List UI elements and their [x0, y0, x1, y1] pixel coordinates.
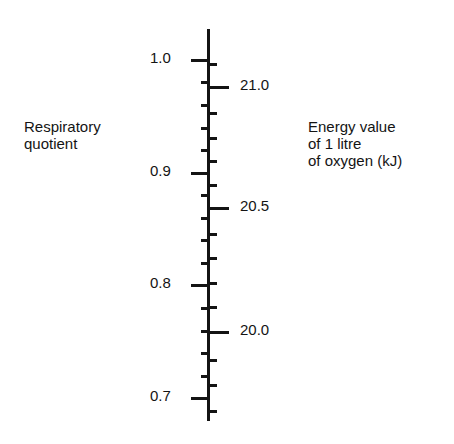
- rq-minor-tick: [201, 330, 208, 333]
- rq-title-line-2: quotient: [24, 135, 101, 152]
- energy-minor-tick: [209, 184, 217, 187]
- rq-minor-tick: [201, 127, 208, 130]
- energy-label-21-0: 21.0: [240, 76, 269, 93]
- rq-major-tick: [191, 397, 208, 400]
- energy-minor-tick: [209, 137, 217, 140]
- rq-label-0-9: 0.9: [150, 162, 171, 179]
- energy-minor-tick: [209, 410, 217, 413]
- energy-minor-tick: [209, 359, 217, 362]
- rq-minor-tick: [201, 194, 208, 197]
- energy-minor-tick: [209, 233, 217, 236]
- rq-title-line-1: Respiratory: [24, 118, 101, 135]
- rq-major-tick: [191, 59, 208, 62]
- rq-label-0-7: 0.7: [150, 387, 171, 404]
- energy-minor-tick: [209, 160, 217, 163]
- energy-label-20-5: 20.5: [240, 197, 269, 214]
- nomogram-diagram: 1.0 0.9 0.8 0.7 21.0 20.5 20.0 Respirato…: [0, 0, 454, 444]
- energy-scale-title: Energy value of 1 litre of oxygen (kJ): [308, 118, 402, 169]
- energy-title-line-1: Energy value: [308, 118, 402, 135]
- rq-label-0-8: 0.8: [150, 274, 171, 291]
- energy-label-20-0: 20.0: [240, 321, 269, 338]
- energy-minor-tick: [209, 63, 217, 66]
- rq-minor-tick: [201, 239, 208, 242]
- rq-major-tick: [191, 172, 208, 175]
- rq-minor-tick: [201, 352, 208, 355]
- energy-minor-tick: [209, 112, 217, 115]
- rq-major-tick: [191, 284, 208, 287]
- rq-label-1-0: 1.0: [150, 49, 171, 66]
- energy-title-line-3: of oxygen (kJ): [308, 152, 402, 169]
- rq-minor-tick: [201, 104, 208, 107]
- energy-minor-tick: [209, 306, 217, 309]
- rq-minor-tick: [201, 307, 208, 310]
- rq-minor-tick: [201, 217, 208, 220]
- energy-major-tick: [209, 207, 229, 210]
- rq-scale-title: Respiratory quotient: [24, 118, 101, 152]
- energy-major-tick: [209, 86, 229, 89]
- energy-minor-tick: [209, 257, 217, 260]
- energy-major-tick: [209, 331, 229, 334]
- rq-minor-tick: [201, 81, 208, 84]
- rq-minor-tick: [201, 262, 208, 265]
- energy-minor-tick: [209, 384, 217, 387]
- energy-title-line-2: of 1 litre: [308, 135, 402, 152]
- rq-minor-tick: [201, 375, 208, 378]
- energy-minor-tick: [209, 282, 217, 285]
- rq-minor-tick: [201, 149, 208, 152]
